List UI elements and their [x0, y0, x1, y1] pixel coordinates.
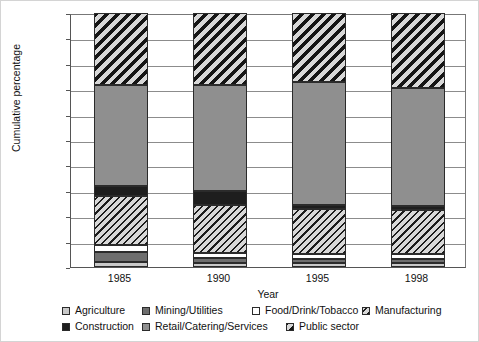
legend-label: Agriculture: [75, 305, 125, 316]
bar-segment-1985-retail-catering-services[interactable]: [94, 85, 148, 185]
bar-segment-1990-mining-utilities[interactable]: [193, 258, 247, 263]
bar-1990[interactable]: [193, 13, 247, 267]
legend-label: Public sector: [299, 321, 359, 332]
legend-label: Manufacturing: [375, 305, 442, 316]
x-tick-1990: 1990: [179, 272, 259, 284]
bar-segment-1998-mining-utilities[interactable]: [391, 259, 445, 263]
bar-segment-1998-retail-catering-services[interactable]: [391, 88, 445, 206]
legend-item-food-drink-tobacco[interactable]: Food/Drink/Tobacco: [252, 305, 358, 316]
bar-segment-1990-agriculture[interactable]: [193, 263, 247, 267]
bar-segment-1995-agriculture[interactable]: [292, 263, 346, 267]
bar-segment-1995-public-sector[interactable]: [292, 13, 346, 82]
bar-segment-1995-food-drink-tobacco[interactable]: [292, 254, 346, 259]
y-tick-mark-0%: [66, 268, 70, 269]
legend-swatch-construction-icon: [62, 323, 70, 331]
bar-segment-1998-construction[interactable]: [391, 206, 445, 210]
legend-swatch-food-icon: [252, 307, 260, 315]
plot-area: [70, 14, 466, 268]
legend-item-retail-catering-services[interactable]: Retail/Catering/Services: [142, 321, 268, 332]
bar-segment-1985-manufacturing[interactable]: [94, 196, 148, 246]
legend-swatch-agriculture-icon: [62, 307, 70, 315]
x-tick-1995: 1995: [278, 272, 358, 284]
bar-segment-1985-agriculture[interactable]: [94, 262, 148, 267]
legend-label: Mining/Utilities: [155, 305, 223, 316]
legend-swatch-manufacturing-icon: [362, 307, 370, 315]
bar-segment-1990-construction[interactable]: [193, 191, 247, 205]
bar-segment-1990-food-drink-tobacco[interactable]: [193, 253, 247, 258]
bar-segment-1990-retail-catering-services[interactable]: [193, 85, 247, 190]
legend-label: Food/Drink/Tobacco: [265, 305, 358, 316]
legend-item-public-sector[interactable]: Public sector: [286, 321, 359, 332]
bar-1995[interactable]: [292, 13, 346, 267]
legend-swatch-retail-icon: [142, 323, 150, 331]
legend-item-construction[interactable]: Construction: [62, 321, 134, 332]
legend-item-agriculture[interactable]: Agriculture: [62, 305, 125, 316]
bar-1985[interactable]: [94, 13, 148, 267]
bar-segment-1990-manufacturing[interactable]: [193, 205, 247, 253]
legend-item-mining-utilities[interactable]: Mining/Utilities: [142, 305, 223, 316]
stacked-bar-chart: Cumulative percentage 0%10%20%30%40%50%6…: [0, 0, 479, 342]
x-tick-1998: 1998: [377, 272, 457, 284]
legend-swatch-mining-icon: [142, 307, 150, 315]
bar-segment-1995-manufacturing[interactable]: [292, 209, 346, 255]
bar-segment-1995-retail-catering-services[interactable]: [292, 82, 346, 205]
legend-row-2: ConstructionRetail/Catering/ServicesPubl…: [62, 321, 472, 335]
bar-segment-1985-public-sector[interactable]: [94, 13, 148, 85]
bar-segment-1998-food-drink-tobacco[interactable]: [391, 254, 445, 259]
bar-segment-1998-manufacturing[interactable]: [391, 210, 445, 254]
bar-segment-1985-food-drink-tobacco[interactable]: [94, 245, 148, 251]
legend-label: Retail/Catering/Services: [155, 321, 268, 332]
bar-segment-1985-construction[interactable]: [94, 186, 148, 196]
legend-swatch-public-icon: [286, 323, 294, 331]
x-tick-1985: 1985: [80, 272, 160, 284]
legend-item-manufacturing[interactable]: Manufacturing: [362, 305, 442, 316]
bar-segment-1998-agriculture[interactable]: [391, 263, 445, 267]
legend-row-1: AgricultureMining/UtilitiesFood/Drink/To…: [62, 305, 472, 319]
x-axis-title: Year: [70, 288, 466, 300]
bar-segment-1985-mining-utilities[interactable]: [94, 252, 148, 262]
bar-segment-1990-public-sector[interactable]: [193, 13, 247, 85]
bar-segment-1995-mining-utilities[interactable]: [292, 259, 346, 263]
legend-label: Construction: [75, 321, 134, 332]
bar-1998[interactable]: [391, 13, 445, 267]
bar-segment-1998-public-sector[interactable]: [391, 13, 445, 88]
bar-segment-1995-construction[interactable]: [292, 205, 346, 209]
y-axis-title: Cumulative percentage: [10, 0, 22, 218]
